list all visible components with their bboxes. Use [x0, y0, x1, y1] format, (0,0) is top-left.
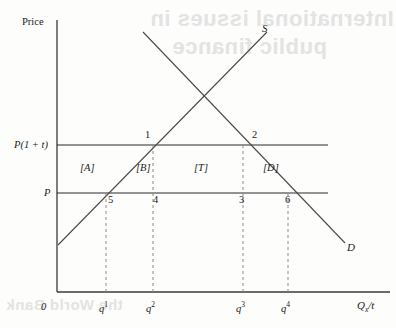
region-label-a: [A]	[80, 163, 95, 174]
point-label-4: 4	[153, 195, 158, 206]
point-label-3: 3	[239, 195, 244, 206]
demand-curve-label: D	[347, 242, 355, 253]
origin-label: 0	[41, 302, 46, 313]
x-axis-title: Qx/t	[357, 300, 374, 314]
region-label-b: [B]	[136, 163, 151, 174]
x-tick-q2-exponent: 2	[151, 300, 155, 309]
supply-demand-figure: International issues in public finance t…	[0, 0, 396, 328]
x-tick-q1: q1	[99, 301, 108, 314]
point-label-6: 6	[285, 195, 290, 206]
y-axis-title: Price	[22, 17, 44, 28]
point-label-1: 1	[145, 130, 150, 141]
region-label-d: [D]	[263, 163, 279, 174]
point-label-2: 2	[252, 130, 257, 141]
demand-curve	[143, 32, 345, 243]
point-label-5: 5	[108, 195, 113, 206]
x-tick-q2: q2	[146, 301, 155, 314]
x-tick-q1-exponent: 1	[104, 300, 108, 309]
x-axis-title-tail: /t	[368, 299, 374, 311]
y-tick-price-net: P	[44, 188, 50, 199]
supply-curve-label: S	[262, 23, 268, 34]
x-tick-q4-exponent: 4	[286, 300, 290, 309]
region-label-t: [T]	[194, 163, 208, 174]
x-tick-q3-exponent: 3	[241, 300, 245, 309]
x-axis-title-main: Q	[357, 299, 365, 311]
supply-curve	[58, 32, 267, 245]
x-tick-q3: q3	[236, 301, 245, 314]
x-tick-q4: q4	[281, 301, 290, 314]
y-tick-price-with-tax: P(1 + t)	[14, 140, 48, 151]
